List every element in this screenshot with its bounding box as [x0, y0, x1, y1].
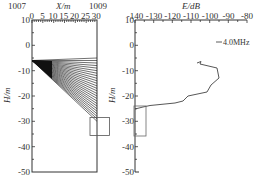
figure: 1007 X/m 1009 0 5 10 15 20 25 30 10 0 -1…: [0, 0, 260, 185]
left-y-tick-labels: 10 0 -10 -20 -30 -40 -50: [18, 15, 31, 177]
left-axes-frame: [32, 20, 97, 172]
left-highlight-box: [90, 118, 110, 136]
left-top-label-1009: 1009: [89, 1, 108, 11]
left-ylabel: H/m: [2, 87, 12, 104]
y-tick-label: -50: [18, 167, 30, 177]
y-tick-label: 0: [130, 40, 135, 50]
y-tick-label: -40: [18, 142, 30, 152]
y-tick-label: -40: [122, 142, 134, 152]
y-tick-label: -20: [122, 91, 134, 101]
y-tick-label: 0: [26, 40, 31, 50]
right-panel: E/dB -140 -130 -120 -110 -100 -90 -80 10…: [107, 1, 253, 177]
left-top-label-1007: 1007: [8, 1, 27, 11]
y-tick-label: 10: [21, 15, 31, 25]
legend-label: 4.0MHz: [223, 38, 250, 47]
left-xlabel: X/m: [55, 1, 71, 11]
right-xlabel: E/dB: [181, 1, 200, 11]
y-tick-label: -10: [18, 66, 30, 76]
y-tick-label: -30: [18, 116, 30, 126]
y-tick-label: -30: [122, 116, 134, 126]
y-tick-label: -10: [122, 66, 134, 76]
y-tick-label: -20: [18, 91, 30, 101]
right-y-tick-labels: 10 0 -10 -20 -30 -40 -50: [122, 15, 135, 177]
y-tick-label: 10: [125, 15, 135, 25]
left-panel: 1007 X/m 1009 0 5 10 15 20 25 30 10 0 -1…: [2, 1, 110, 177]
y-tick-label: -50: [122, 167, 134, 177]
field-strength-curve-4mhz: [135, 62, 219, 110]
right-ylabel: H/m: [107, 87, 117, 104]
